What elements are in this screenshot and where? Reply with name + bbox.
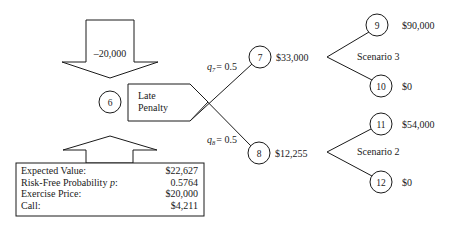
svg-text:11: 11	[376, 120, 385, 130]
node-6-label: 6	[108, 98, 113, 108]
summary-value-expected-value: $22,627	[166, 165, 199, 176]
up-arrow-icon	[63, 136, 157, 163]
node-8-value: $12,255	[275, 148, 308, 159]
decision-tree-diagram: –20,000 6 Late Penalty q7= 0.5 q8= 0.5 7…	[0, 0, 449, 226]
svg-text:7: 7	[258, 53, 263, 63]
cost-arrow: –20,000	[62, 20, 158, 78]
summary-label-risk-free-probability: Risk-Free Probability p:	[21, 177, 118, 188]
event-line-1: Late	[138, 90, 156, 101]
branch-line-to-7	[190, 64, 252, 121]
node-10-value: $0	[402, 81, 412, 92]
summary-label-expected-value: Expected Value:	[21, 165, 86, 176]
summary-box: Expected Value: $22,627 Risk-Free Probab…	[16, 163, 204, 216]
cost-label: –20,000	[93, 48, 127, 59]
svg-text:10: 10	[376, 82, 386, 92]
scenario-2-fork: Scenario 2 11 $54,000 12 $0	[327, 113, 435, 193]
summary-value-exercise-price: $20,000	[166, 188, 199, 199]
node-6: 6	[99, 91, 121, 113]
svg-text:12: 12	[376, 178, 386, 188]
node-11-value: $54,000	[402, 119, 435, 130]
prob-q8: q8= 0.5	[207, 134, 237, 146]
summary-label-call: Call:	[21, 200, 40, 211]
node-7-value: $33,000	[276, 52, 309, 63]
node-7: 7 $33,000	[249, 46, 309, 68]
summary-label-exercise-price: Exercise Price:	[21, 188, 81, 199]
summary-value-call: $4,211	[171, 200, 198, 211]
scenario-3-label: Scenario 3	[357, 51, 400, 62]
svg-text:9: 9	[375, 21, 380, 31]
scenario-2-label: Scenario 2	[357, 146, 400, 157]
event-line-2: Penalty	[138, 102, 168, 113]
svg-text:8: 8	[257, 149, 262, 159]
scenario-3-fork: Scenario 3 9 $90,000 10 $0	[327, 14, 435, 97]
node-12-value: $0	[402, 177, 412, 188]
node-9-value: $90,000	[402, 20, 435, 31]
node-8: 8 $12,255	[248, 142, 308, 164]
prob-q7: q7= 0.5	[207, 61, 237, 73]
summary-value-risk-free-probability: 0.5764	[171, 177, 199, 188]
